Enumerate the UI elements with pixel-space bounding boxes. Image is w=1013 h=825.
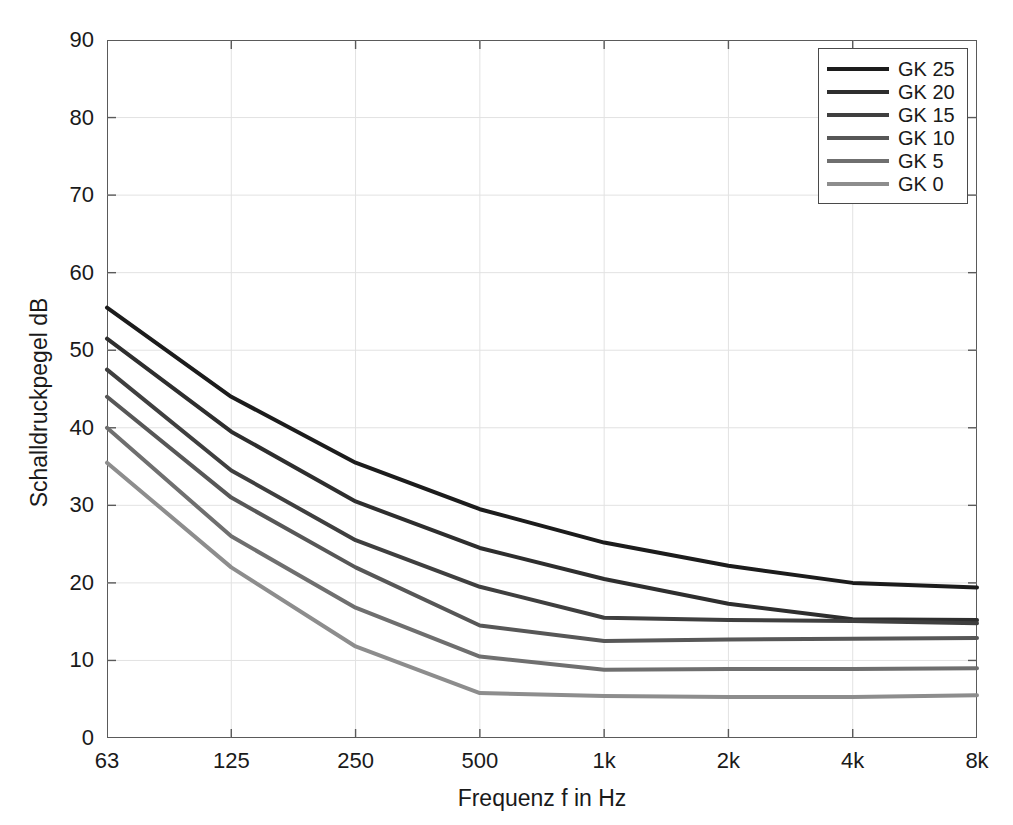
series-line-gk-20 xyxy=(107,339,977,621)
y-tick-label: 10 xyxy=(30,649,94,671)
y-tick-label: 0 xyxy=(30,727,94,749)
legend-item[interactable]: GK 20 xyxy=(819,80,967,103)
x-tick-label: 125 xyxy=(213,750,250,772)
legend-item[interactable]: GK 25 xyxy=(819,57,967,80)
legend-color-swatch xyxy=(827,136,889,140)
y-axis-title: Schalldruckpegel dB xyxy=(26,193,53,613)
x-tick-label: 63 xyxy=(95,750,119,772)
legend-color-swatch xyxy=(827,67,889,71)
series-line-gk-25 xyxy=(107,308,977,588)
legend-item[interactable]: GK 0 xyxy=(819,172,967,195)
legend-color-swatch xyxy=(827,113,889,117)
series-line-gk-15 xyxy=(107,370,977,624)
legend-item-label: GK 5 xyxy=(898,151,944,171)
y-tick-label: 80 xyxy=(30,107,94,129)
x-tick-label: 1k xyxy=(593,750,616,772)
legend-color-swatch xyxy=(827,90,889,94)
legend-item-label: GK 25 xyxy=(898,59,955,79)
x-tick-label: 250 xyxy=(337,750,374,772)
legend-item-label: GK 15 xyxy=(898,105,955,125)
x-axis-title: Frequenz f in Hz xyxy=(107,785,977,812)
legend-color-swatch xyxy=(827,182,889,186)
legend-item-label: GK 0 xyxy=(898,174,944,194)
x-tick-label: 4k xyxy=(841,750,864,772)
x-tick-label: 2k xyxy=(717,750,740,772)
series-lines xyxy=(107,308,977,697)
legend-item[interactable]: GK 10 xyxy=(819,126,967,149)
legend-item[interactable]: GK 5 xyxy=(819,149,967,172)
x-tick-label: 8k xyxy=(965,750,988,772)
chart-legend: GK 25GK 20GK 15GK 10GK 5GK 0 xyxy=(818,48,968,204)
legend-item-label: GK 10 xyxy=(898,128,955,148)
y-tick-label: 90 xyxy=(30,29,94,51)
chart-figure: 0102030405060708090 631252505001k2k4k8k … xyxy=(0,0,1013,825)
legend-color-swatch xyxy=(827,159,889,163)
x-tick-label: 500 xyxy=(461,750,498,772)
legend-item[interactable]: GK 15 xyxy=(819,103,967,126)
legend-item-label: GK 20 xyxy=(898,82,955,102)
